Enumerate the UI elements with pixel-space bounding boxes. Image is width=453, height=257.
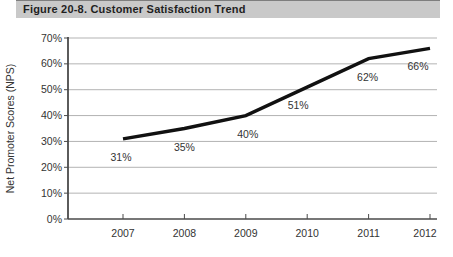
x-tick-label: 2008	[173, 227, 197, 239]
y-tick-label: 10%	[41, 187, 62, 199]
y-tick-label: 0%	[47, 213, 62, 225]
x-tick-label: 2009	[234, 227, 258, 239]
y-tick-label: 40%	[41, 109, 62, 121]
y-tick-label: 30%	[41, 135, 62, 147]
data-point-label: 62%	[357, 71, 378, 83]
figure-20-8: Figure 20-8. Customer Satisfaction Trend…	[0, 0, 453, 257]
nps-line-chart: 0%10%20%30%40%50%60%70%20072008200920102…	[0, 0, 453, 257]
data-point-label: 66%	[407, 60, 428, 72]
data-point-label: 51%	[288, 99, 309, 111]
data-point-label: 31%	[110, 151, 131, 163]
data-point-label: 35%	[174, 141, 195, 153]
data-point-label: 40%	[237, 128, 258, 140]
y-tick-label: 50%	[41, 83, 62, 95]
y-axis-title: Net Promoter Scores (NPS)	[4, 64, 16, 194]
y-tick-label: 60%	[41, 57, 62, 69]
y-tick-label: 70%	[41, 32, 62, 44]
x-tick-label: 2011	[357, 227, 380, 239]
nps-trend-line	[123, 48, 430, 138]
y-tick-label: 20%	[41, 161, 62, 173]
x-tick-label: 2007	[111, 227, 135, 239]
x-tick-label: 2010	[296, 227, 320, 239]
x-tick-label: 2012	[413, 227, 437, 239]
